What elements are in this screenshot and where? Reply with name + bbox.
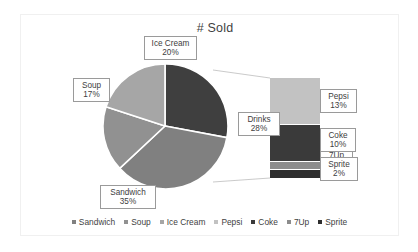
legend-item-label: Sandwich	[79, 217, 115, 227]
callout-ice-cream[interactable]: Ice Cream 20%	[144, 36, 197, 60]
legend-swatch-icon	[214, 220, 218, 224]
bar-segment-7up[interactable]	[270, 162, 320, 169]
legend-swatch-icon	[72, 220, 76, 224]
callout-soup-value: 17%	[77, 90, 106, 100]
legend-item-label: Sprite	[325, 217, 347, 227]
callout-drinks-label: Drinks	[242, 115, 276, 125]
legend-item-coke[interactable]: Coke	[251, 217, 278, 227]
legend-item-label: Ice Cream	[167, 217, 206, 227]
legend-swatch-icon	[287, 220, 291, 224]
callout-sandwich-value: 35%	[104, 197, 152, 207]
legend-swatch-icon	[251, 220, 255, 224]
pie-svg	[101, 62, 229, 190]
legend-swatch-icon	[160, 220, 164, 224]
legend-item-label: Coke	[258, 217, 278, 227]
chart-legend: SandwichSoupIce CreamPepsiCoke7UpSprite	[20, 215, 399, 229]
pie-slice-drinks[interactable]	[165, 64, 228, 138]
callout-coke-label: Coke	[324, 131, 352, 141]
legend-item-7up[interactable]: 7Up	[287, 217, 309, 227]
callout-soup[interactable]: Soup 17%	[73, 78, 110, 102]
legend-item-ice-cream[interactable]: Ice Cream	[160, 217, 206, 227]
callout-drinks-value: 28%	[242, 124, 276, 134]
callout-soup-label: Soup	[77, 81, 106, 91]
legend-item-soup[interactable]: Soup	[124, 217, 151, 227]
chart-title: # Sold	[0, 21, 418, 35]
legend-item-label: 7Up	[294, 217, 309, 227]
callout-drinks[interactable]: Drinks 28%	[238, 112, 280, 136]
callout-ice-cream-label: Ice Cream	[148, 39, 193, 49]
callout-coke[interactable]: Coke 10%	[320, 128, 356, 152]
legend-item-sandwich[interactable]: Sandwich	[72, 217, 115, 227]
legend-item-label: Pepsi	[221, 217, 242, 227]
callout-sprite-value: 2%	[324, 169, 354, 179]
callout-pepsi-label: Pepsi	[324, 92, 353, 102]
chart-container[interactable]: # Sold Ice Cream 20% Soup 17%	[0, 0, 418, 252]
callout-pepsi-value: 13%	[324, 101, 353, 111]
callout-sprite[interactable]: Sprite 2%	[320, 157, 358, 181]
callout-pepsi[interactable]: Pepsi 13%	[320, 89, 357, 113]
legend-swatch-icon	[124, 220, 128, 224]
callout-sandwich[interactable]: Sandwich 35%	[100, 185, 156, 209]
callout-sprite-label: Sprite	[324, 160, 354, 170]
pie-chart[interactable]	[101, 62, 229, 190]
callout-ice-cream-value: 20%	[148, 48, 193, 58]
legend-item-pepsi[interactable]: Pepsi	[214, 217, 242, 227]
callout-sandwich-label: Sandwich	[104, 188, 152, 198]
legend-item-label: Soup	[131, 217, 151, 227]
callout-coke-value: 10%	[324, 140, 352, 150]
legend-swatch-icon	[318, 220, 322, 224]
legend-item-sprite[interactable]: Sprite	[318, 217, 347, 227]
bar-segment-sprite[interactable]	[270, 170, 320, 178]
